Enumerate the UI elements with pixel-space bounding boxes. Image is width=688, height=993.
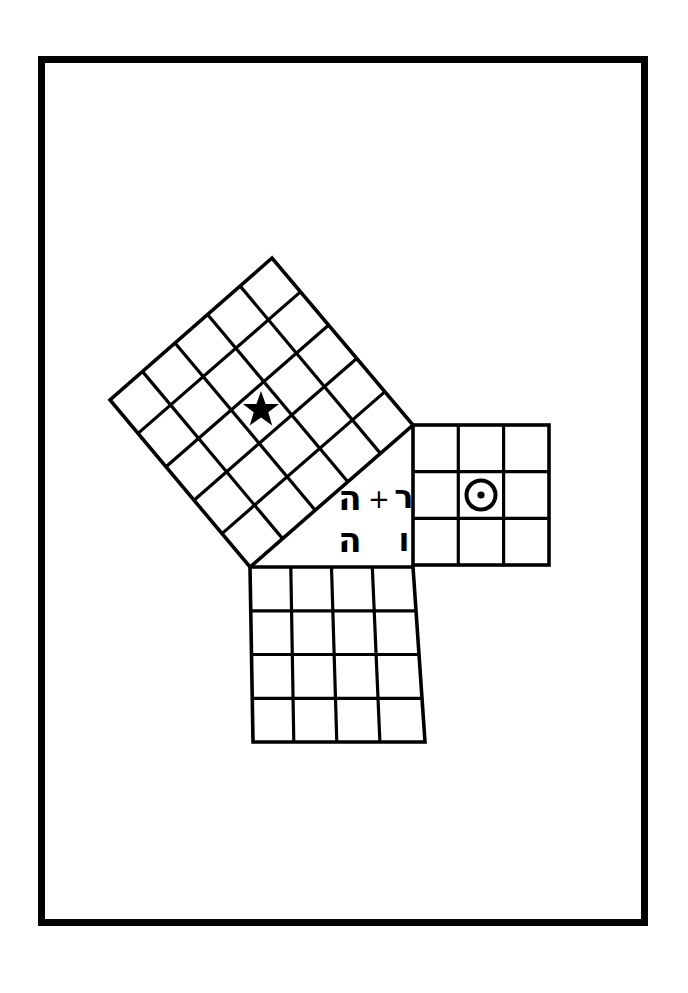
long-leg-square-4x4	[250, 567, 425, 742]
hebrew-letter-resh: ר	[394, 478, 413, 516]
plus-operator: +	[368, 484, 390, 514]
hebrew-letter-vav: ו	[399, 521, 410, 559]
hebrew-letter-he-bottom: ה	[338, 520, 361, 560]
sun-icon	[467, 481, 496, 510]
triangle-inscription: ה ה + ר ו	[338, 478, 413, 560]
hebrew-letter-he-top: ה	[338, 478, 361, 518]
pythagorean-figure: ה ה + ר ו	[0, 0, 688, 993]
page-canvas: ה ה + ר ו Right triangle with a square e…	[0, 0, 688, 993]
